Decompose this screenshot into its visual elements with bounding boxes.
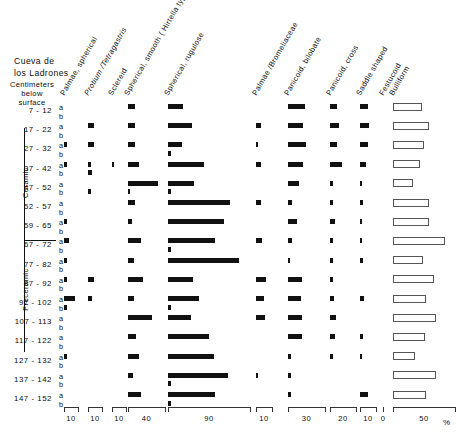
bar-9-6-a bbox=[360, 200, 363, 205]
bar-11-12-a bbox=[393, 314, 436, 322]
bar-1-10-a bbox=[64, 277, 67, 282]
bar-4-8-a bbox=[128, 238, 141, 243]
axis-tick-2-0 bbox=[88, 407, 89, 412]
bar-8-9-a bbox=[330, 258, 333, 263]
bar-11-13-a bbox=[393, 333, 425, 341]
column-header-anchor: Spherical, smooth ( Hirtella type) bbox=[130, 96, 131, 97]
bar-5-10-a bbox=[168, 277, 193, 282]
depth-label: 17 - 22 bbox=[6, 125, 52, 134]
axis-tick-11-0 bbox=[393, 407, 394, 412]
sub-row-label-b: b bbox=[59, 380, 63, 389]
axis-tick-6-1 bbox=[272, 407, 273, 412]
bar-5-11-a bbox=[168, 296, 199, 301]
bar-9-14-a bbox=[360, 354, 362, 359]
bar-1-9-a bbox=[64, 258, 67, 263]
phytolith-percentage-diagram: Cueva delos LadronesCentimetersbelowsurf… bbox=[0, 0, 461, 432]
column-header-anchor: Festucoid bbox=[385, 96, 386, 97]
bar-5-3-a bbox=[168, 142, 182, 147]
bar-8-3-a bbox=[330, 142, 337, 147]
column-header-anchor: Palmae /Bromeliaceae bbox=[258, 96, 259, 97]
bar-7-16-a bbox=[288, 392, 291, 397]
axis-tick-7-0 bbox=[288, 407, 289, 412]
bar-9-4-a bbox=[360, 162, 366, 167]
axis-line-3 bbox=[112, 407, 126, 408]
percent-symbol: % bbox=[443, 418, 450, 427]
bar-4-5-b bbox=[128, 189, 130, 194]
bar-7-11-a bbox=[288, 296, 301, 301]
bar-2-4-b bbox=[88, 170, 92, 175]
bar-5-6-a bbox=[168, 200, 230, 205]
axis-label-3: 10 bbox=[105, 414, 133, 423]
bar-8-2-a bbox=[330, 123, 339, 128]
bar-7-5-a bbox=[288, 181, 299, 186]
column-header-anchor: Sclereid bbox=[114, 96, 115, 97]
bar-9-8-a bbox=[360, 238, 362, 243]
depth-label: 147 - 152 bbox=[6, 394, 52, 403]
bar-6-3-a bbox=[256, 142, 258, 147]
bar-8-8-a bbox=[330, 238, 333, 243]
period-label-1: Ceramic bbox=[21, 155, 30, 211]
column-header-anchor: Spherical, rugulose bbox=[170, 96, 171, 97]
axis-line-1 bbox=[64, 407, 78, 408]
column-header-anchor: Bulliform bbox=[395, 96, 396, 97]
depth-label: 7 - 12 bbox=[6, 106, 52, 115]
bar-7-8-a bbox=[288, 238, 292, 243]
bar-4-6-a bbox=[128, 200, 135, 205]
bar-8-11-a bbox=[330, 296, 334, 301]
bar-1-14-a bbox=[64, 354, 67, 359]
bar-3-4-a bbox=[112, 162, 114, 167]
axis-line-4 bbox=[128, 407, 165, 408]
axis-line-9 bbox=[360, 407, 376, 408]
axis-line-8 bbox=[330, 407, 356, 408]
depth-label: 127 - 132 bbox=[6, 356, 52, 365]
bar-7-9-a bbox=[288, 258, 290, 263]
bar-6-2-a bbox=[256, 123, 261, 128]
bar-9-7-a bbox=[360, 219, 362, 224]
axis-label-7: 30 bbox=[293, 414, 321, 423]
axis-line-6 bbox=[256, 407, 272, 408]
sub-row-label-b: b bbox=[59, 304, 63, 313]
bar-4-1-a bbox=[128, 104, 135, 109]
bar-4-14-a bbox=[128, 354, 139, 359]
bar-5-2-a bbox=[168, 123, 192, 128]
bar-11-6-a bbox=[393, 199, 429, 207]
bar-11-5-a bbox=[393, 179, 413, 187]
bar-4-2-a bbox=[128, 123, 135, 128]
bar-7-15-a bbox=[288, 373, 291, 378]
axis-tick-3-1 bbox=[126, 407, 127, 412]
bar-7-13-a bbox=[288, 334, 302, 339]
depth-label: 67 - 72 bbox=[6, 240, 52, 249]
bar-11-15-a bbox=[393, 371, 436, 379]
sub-row-label-b: b bbox=[59, 131, 63, 140]
column-header-anchor: Protium /Tetragastris bbox=[90, 96, 91, 97]
bar-11-14-a bbox=[393, 352, 415, 360]
period-label-2: Preceramic bbox=[21, 259, 30, 321]
bar-4-15-a bbox=[128, 373, 133, 378]
axis-label-11: 50 bbox=[410, 414, 438, 423]
bar-7-14-a bbox=[288, 354, 291, 359]
bar-7-12-a bbox=[288, 315, 302, 320]
axis-caption-line-2: below bbox=[0, 89, 64, 98]
bar-6-10-a bbox=[256, 277, 266, 282]
axis-caption-line-1: Centimeters bbox=[0, 80, 64, 89]
bar-5-4-a bbox=[168, 162, 204, 167]
bar-9-3-a bbox=[360, 142, 368, 147]
bar-5-5-a bbox=[168, 181, 194, 186]
bar-5-3-b bbox=[168, 151, 171, 156]
axis-line-5 bbox=[168, 407, 250, 408]
bar-4-3-a bbox=[128, 142, 135, 147]
sub-row-label-b: b bbox=[59, 246, 63, 255]
sub-row-label-b: b bbox=[59, 342, 63, 351]
bar-9-5-a bbox=[360, 181, 362, 186]
bar-7-2-a bbox=[288, 123, 303, 128]
bar-11-1-a bbox=[393, 103, 422, 111]
axis-label-8: 20 bbox=[329, 414, 357, 423]
bar-9-11-a bbox=[360, 296, 364, 301]
bar-11-9-a bbox=[393, 256, 423, 264]
sub-row-label-b: b bbox=[59, 400, 63, 409]
bar-4-16-a bbox=[128, 392, 141, 397]
column-header-4: Spherical, smooth ( Hirtella type) bbox=[122, 0, 191, 97]
bar-6-15-a bbox=[256, 373, 258, 378]
bar-11-8-a bbox=[393, 237, 445, 245]
sub-row-label-b: b bbox=[59, 265, 63, 274]
